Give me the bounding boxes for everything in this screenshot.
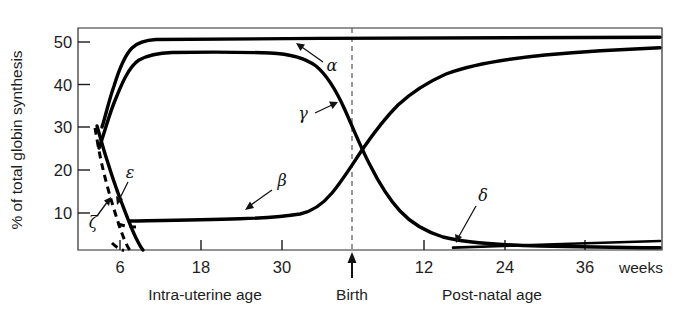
delta-label-text: δ [478,186,488,205]
y-tick-label-20: 20 [54,161,72,179]
y-tick-label-40: 40 [54,76,72,94]
x-axis-units-label: weeks [618,259,663,276]
globin-synthesis-chart: % of total globin synthesis 50 40 30 20 … [0,0,683,319]
zeta-label-text: ζ [89,213,99,232]
y-axis-title: % of total globin synthesis [8,50,25,229]
x-tick-label-36: 36 [576,258,594,276]
caption-birth: Birth [336,286,368,303]
chart-svg: % of total globin synthesis 50 40 30 20 … [0,0,683,319]
y-tick-label-50: 50 [54,33,72,51]
gamma-label-text: γ [298,104,308,123]
caption-intra-uterine-age: Intra-uterine age [148,286,262,303]
alpha-label-text: α [327,56,338,75]
y-axis-title-text: % of total globin synthesis [8,50,25,229]
y-tick-label-30: 30 [54,118,72,136]
x-tick-label-12: 12 [415,258,433,276]
x-tick-label-6: 6 [115,258,124,276]
beta-label-text: β [276,171,286,190]
y-tick-label-10: 10 [54,204,72,222]
x-tick-label-30: 30 [273,258,291,276]
x-tick-label-24: 24 [496,258,514,276]
caption-post-natal-age: Post-natal age [442,286,542,303]
x-tick-label-18: 18 [192,258,210,276]
epsilon-label-text: ε [126,163,135,182]
